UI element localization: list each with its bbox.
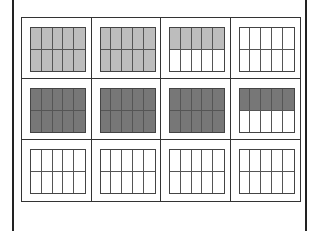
grid-cell (92, 79, 162, 140)
fraction-part (53, 89, 64, 111)
grid-cell (231, 140, 301, 201)
fraction-part (42, 172, 53, 194)
fraction-part (122, 150, 133, 172)
fraction-part (170, 172, 181, 194)
fraction-part (53, 28, 64, 50)
fraction-part (170, 28, 181, 50)
fraction-part (42, 111, 53, 133)
fraction-part (63, 172, 74, 194)
fraction-part (181, 28, 192, 50)
grid-cell (231, 79, 301, 140)
grid-cell (22, 18, 92, 79)
fraction-part (101, 150, 112, 172)
fraction-part (213, 172, 224, 194)
fraction-part (261, 28, 272, 50)
fraction-part (111, 150, 122, 172)
fraction-part (122, 28, 133, 50)
fraction-part (192, 150, 203, 172)
fraction-grid (21, 17, 301, 202)
fraction-part (170, 150, 181, 172)
fraction-part (213, 150, 224, 172)
fraction-part (283, 172, 294, 194)
fraction-part (261, 150, 272, 172)
fraction-part (101, 89, 112, 111)
fraction-part (202, 111, 213, 133)
fraction-part (133, 150, 144, 172)
fraction-bar (100, 88, 156, 133)
fraction-part (133, 172, 144, 194)
fraction-part (181, 50, 192, 72)
fraction-part (133, 111, 144, 133)
grid-cell (22, 79, 92, 140)
fraction-bar (100, 27, 156, 72)
fraction-part (250, 89, 261, 111)
fraction-part (111, 89, 122, 111)
fraction-part (111, 28, 122, 50)
fraction-part (144, 150, 155, 172)
fraction-part (192, 172, 203, 194)
fraction-part (213, 111, 224, 133)
fraction-part (31, 172, 42, 194)
fraction-part (250, 28, 261, 50)
grid-cell (161, 18, 231, 79)
right-margin-line (305, 0, 307, 231)
fraction-part (181, 150, 192, 172)
fraction-part (101, 111, 112, 133)
fraction-bar (169, 149, 225, 194)
fraction-part (144, 50, 155, 72)
fraction-part (101, 28, 112, 50)
fraction-part (74, 150, 85, 172)
fraction-part (261, 111, 272, 133)
fraction-part (122, 50, 133, 72)
fraction-part (133, 28, 144, 50)
fraction-bar (169, 88, 225, 133)
left-margin-line (12, 0, 14, 231)
fraction-part (192, 28, 203, 50)
fraction-bar (239, 149, 295, 194)
fraction-part (240, 172, 251, 194)
fraction-part (63, 28, 74, 50)
fraction-part (144, 28, 155, 50)
fraction-part (272, 50, 283, 72)
fraction-part (122, 111, 133, 133)
fraction-part (31, 28, 42, 50)
fraction-part (74, 89, 85, 111)
fraction-part (181, 89, 192, 111)
fraction-bar (30, 88, 86, 133)
fraction-part (202, 172, 213, 194)
fraction-part (133, 89, 144, 111)
fraction-part (53, 150, 64, 172)
fraction-part (74, 111, 85, 133)
fraction-part (250, 111, 261, 133)
fraction-part (283, 89, 294, 111)
fraction-part (250, 50, 261, 72)
fraction-part (202, 28, 213, 50)
fraction-bar (169, 27, 225, 72)
fraction-part (272, 89, 283, 111)
grid-cell (161, 79, 231, 140)
fraction-part (111, 172, 122, 194)
fraction-part (202, 150, 213, 172)
fraction-part (202, 50, 213, 72)
fraction-part (181, 111, 192, 133)
fraction-part (272, 28, 283, 50)
fraction-part (192, 111, 203, 133)
fraction-part (42, 50, 53, 72)
fraction-part (63, 89, 74, 111)
fraction-part (261, 89, 272, 111)
fraction-part (122, 172, 133, 194)
fraction-part (63, 50, 74, 72)
fraction-part (170, 89, 181, 111)
fraction-part (283, 111, 294, 133)
fraction-part (111, 50, 122, 72)
fraction-part (170, 50, 181, 72)
fraction-part (53, 111, 64, 133)
fraction-part (192, 89, 203, 111)
fraction-part (144, 172, 155, 194)
grid-cell (231, 18, 301, 79)
fraction-part (181, 172, 192, 194)
fraction-part (261, 172, 272, 194)
fraction-bar (30, 149, 86, 194)
fraction-part (250, 172, 261, 194)
fraction-part (31, 150, 42, 172)
